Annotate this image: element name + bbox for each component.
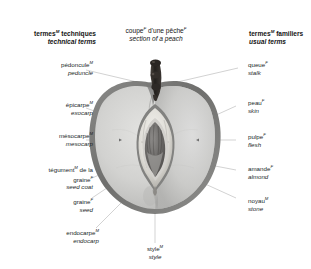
label-almond-en: almond	[248, 173, 273, 181]
label-seed-coat-en: seed coat	[49, 183, 93, 191]
label-skin-fr: peauF	[248, 97, 264, 107]
heading-usual-fr: termesM familiers	[249, 28, 303, 38]
heading-technical-terms: termesM techniques technical terms	[34, 28, 96, 47]
label-almond-fr: amandeF	[248, 163, 273, 173]
label-seed: graineF seed	[73, 196, 93, 213]
stem-base-knob	[151, 84, 160, 91]
label-exocarp-en: exocarp	[66, 109, 93, 117]
label-mesocarp: mésocarpeM mesocarp	[59, 130, 93, 147]
label-exocarp: épicarpeM exocarp	[66, 99, 93, 116]
figure-title-fr: coupeF d'une pêcheF	[110, 25, 202, 35]
label-peduncle: pédonculeM peduncle	[61, 59, 93, 76]
label-style-fr: styleM	[131, 243, 179, 253]
figure-title-en: section of a peach	[110, 35, 202, 43]
label-style: styleM style	[131, 243, 179, 260]
label-flesh-en: flesh	[248, 141, 266, 149]
label-flesh-fr: pulpeF	[248, 131, 266, 141]
label-stalk: queueF stalk	[248, 59, 268, 76]
label-endocarp: endocarpeM endocarp	[66, 227, 99, 244]
heading-figure-title: coupeF d'une pêcheF section of a peach	[110, 25, 202, 44]
label-style-en: style	[131, 253, 179, 261]
label-exocarp-fr: épicarpeM	[66, 99, 93, 109]
label-stone: noyauM stone	[248, 195, 268, 212]
heading-technical-en: technical terms	[34, 38, 96, 46]
heading-usual-terms: termesM familiers usual terms	[249, 28, 303, 47]
label-stalk-fr: queueF	[248, 59, 268, 69]
label-seed-fr: graineF	[73, 196, 93, 206]
heading-usual-en: usual terms	[249, 38, 303, 46]
stem-mid-knob	[151, 71, 161, 78]
label-flesh: pulpeF flesh	[248, 131, 266, 148]
label-seed-coat: tégumentM de la graineF seed coat	[49, 164, 93, 191]
label-seed-en: seed	[73, 206, 93, 214]
peach-section-diagram: termesM techniques technical terms coupe…	[0, 0, 311, 269]
label-peduncle-fr: pédonculeM	[61, 59, 93, 69]
label-endocarp-fr: endocarpeM	[66, 227, 99, 237]
label-endocarp-en: endocarp	[66, 237, 99, 245]
label-mesocarp-en: mesocarp	[59, 140, 93, 148]
label-almond: amandeF almond	[248, 163, 273, 180]
heading-technical-fr: termesM techniques	[34, 28, 96, 38]
label-stone-fr: noyauM	[248, 195, 268, 205]
label-seed-coat-fr-line2: graineF	[49, 174, 93, 184]
label-seed-coat-fr-line1: tégumentM de la	[49, 164, 93, 174]
stem-top-knob	[150, 60, 161, 67]
label-stalk-en: stalk	[248, 69, 268, 77]
label-peduncle-en: peduncle	[61, 69, 93, 77]
label-skin: peauF skin	[248, 97, 264, 114]
label-mesocarp-fr: mésocarpeM	[59, 130, 93, 140]
label-skin-en: skin	[248, 107, 264, 115]
label-stone-en: stone	[248, 205, 268, 213]
